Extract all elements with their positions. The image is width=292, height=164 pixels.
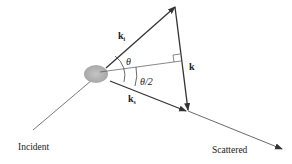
k-scattered-label: ks: [128, 93, 137, 105]
theta-label: θ: [126, 56, 131, 67]
half-theta-arc: [135, 67, 137, 86]
incident-label: Incident: [18, 142, 49, 152]
k-incident-label: ki: [118, 30, 126, 42]
scattered-beam-line: [188, 111, 282, 149]
scattered-label: Scattered: [212, 145, 248, 155]
scattering-vector-diagram: ki θ k θ/2 ks Incident Scattered: [0, 0, 292, 164]
scatterer-blob: [84, 65, 108, 83]
right-angle-mark: [173, 54, 180, 62]
half-theta-label: θ/2: [140, 76, 153, 87]
k-transfer-label: k: [189, 61, 195, 72]
incident-beam-line: [33, 80, 92, 130]
k-incident-vector: [106, 7, 175, 68]
k-transfer-vector: [175, 7, 188, 110]
